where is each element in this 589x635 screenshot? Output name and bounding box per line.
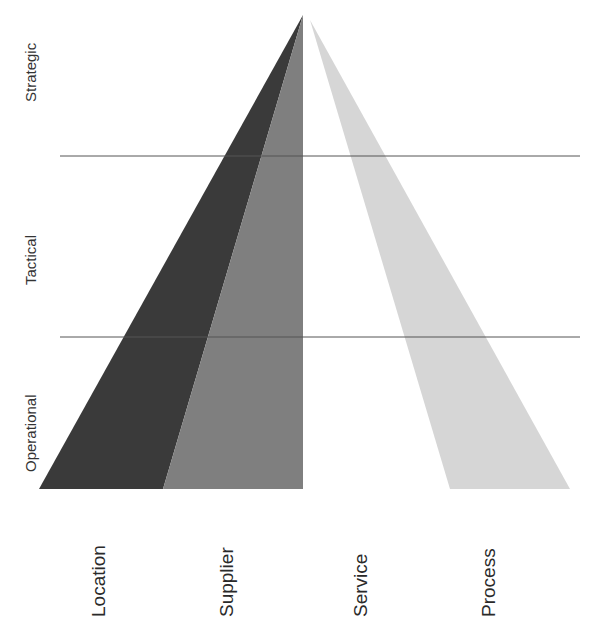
pyramid-diagram (0, 0, 589, 635)
category-label-process: Process (478, 548, 500, 617)
level-label-strategic: Strategic (22, 43, 39, 102)
category-label-service: Service (350, 554, 372, 617)
category-label-location: Location (88, 545, 110, 617)
process-wedge (310, 20, 570, 489)
level-label-tactical: Tactical (22, 235, 39, 285)
category-label-supplier: Supplier (216, 547, 238, 617)
level-label-operational: Operational (22, 394, 39, 472)
